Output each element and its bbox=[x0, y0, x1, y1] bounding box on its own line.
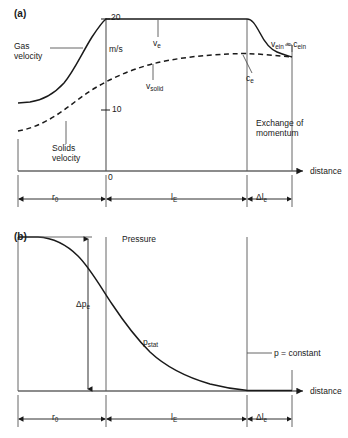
panel-a-dim-label-dle: Δle bbox=[256, 192, 267, 205]
panel-a-dim-label-lE: lE bbox=[171, 192, 177, 205]
panel-a-annotation-solids-velocity: Solids velocity bbox=[52, 143, 80, 163]
panel-b-dim-label-lE: lE bbox=[171, 412, 177, 425]
figure-root: (a) 20 10 m/s 0 distance Gas velocity So… bbox=[0, 0, 348, 438]
v-solid-sub: solid bbox=[150, 85, 163, 92]
a-dle-base: Δl bbox=[256, 192, 264, 202]
exchange-line2: momentum bbox=[256, 128, 303, 138]
a-dle-sub: e bbox=[264, 196, 268, 203]
c-ein-sub: ein bbox=[297, 43, 306, 50]
panel-a-label: (a) bbox=[14, 9, 26, 19]
panel-a-ytick-20: 20 bbox=[111, 12, 120, 22]
delta-pe-sub: e bbox=[86, 303, 90, 310]
panel-b-curve-p-stat bbox=[18, 237, 292, 391]
v-ein-operator: ≈ c bbox=[284, 39, 298, 49]
panel-b-x-axis-label: distance bbox=[310, 386, 342, 396]
panel-b-curve-label-p-stat: pstat bbox=[143, 337, 158, 350]
delta-pe-base: Δp bbox=[76, 299, 86, 309]
b-dle-base: Δl bbox=[256, 412, 264, 422]
panel-b-dim-label-r0: r0 bbox=[52, 412, 58, 425]
panel-b-y-axis-label: Pressure bbox=[122, 234, 156, 244]
exchange-line1: Exchange of bbox=[256, 118, 303, 128]
p-stat-sub: stat bbox=[148, 341, 158, 348]
b-r0-sub: 0 bbox=[55, 416, 59, 423]
solids-velocity-line1: Solids bbox=[52, 143, 80, 153]
a-r0-sub: 0 bbox=[55, 196, 59, 203]
b-dle-sub: e bbox=[264, 416, 268, 423]
panel-a-curve-label-v-e: ve bbox=[153, 38, 161, 51]
panel-a-curve-label-c-e: ce bbox=[246, 73, 254, 86]
figure-svg bbox=[0, 0, 348, 438]
panel-a-leader-c-e bbox=[243, 55, 252, 73]
panel-a-origin-label: 0 bbox=[108, 172, 113, 182]
v-ein-sub: ein bbox=[275, 43, 284, 50]
c-e-sub: e bbox=[250, 77, 254, 84]
panel-a-curve-label-v-solid: vsolid bbox=[146, 81, 163, 94]
panel-a-dim-label-r0: r0 bbox=[52, 192, 58, 205]
solids-velocity-line2: velocity bbox=[52, 153, 80, 163]
gas-velocity-line1: Gas bbox=[14, 41, 42, 51]
panel-a-ytick-10: 10 bbox=[112, 104, 121, 114]
panel-b-graphics bbox=[18, 237, 303, 427]
b-lE-sub: E bbox=[173, 416, 177, 423]
panel-a-y-axis-label: m/s bbox=[109, 44, 123, 54]
panel-b-dim-label-dle: Δle bbox=[256, 412, 267, 425]
gas-velocity-line2: velocity bbox=[14, 51, 42, 61]
panel-a-endpoint-label: vein ≈ cein bbox=[271, 39, 306, 52]
panel-b-annotation-p-constant: p = constant bbox=[274, 348, 321, 358]
panel-a-x-axis-label: distance bbox=[310, 166, 342, 176]
panel-b-label: (b) bbox=[14, 232, 27, 242]
panel-a-annotation-exchange-of-momentum: Exchange of momentum bbox=[256, 118, 303, 138]
a-lE-sub: E bbox=[173, 196, 177, 203]
v-e-sub: e bbox=[157, 42, 161, 49]
panel-b-delta-pe-label: Δpe bbox=[76, 299, 90, 312]
panel-a-annotation-gas-velocity: Gas velocity bbox=[14, 41, 42, 61]
